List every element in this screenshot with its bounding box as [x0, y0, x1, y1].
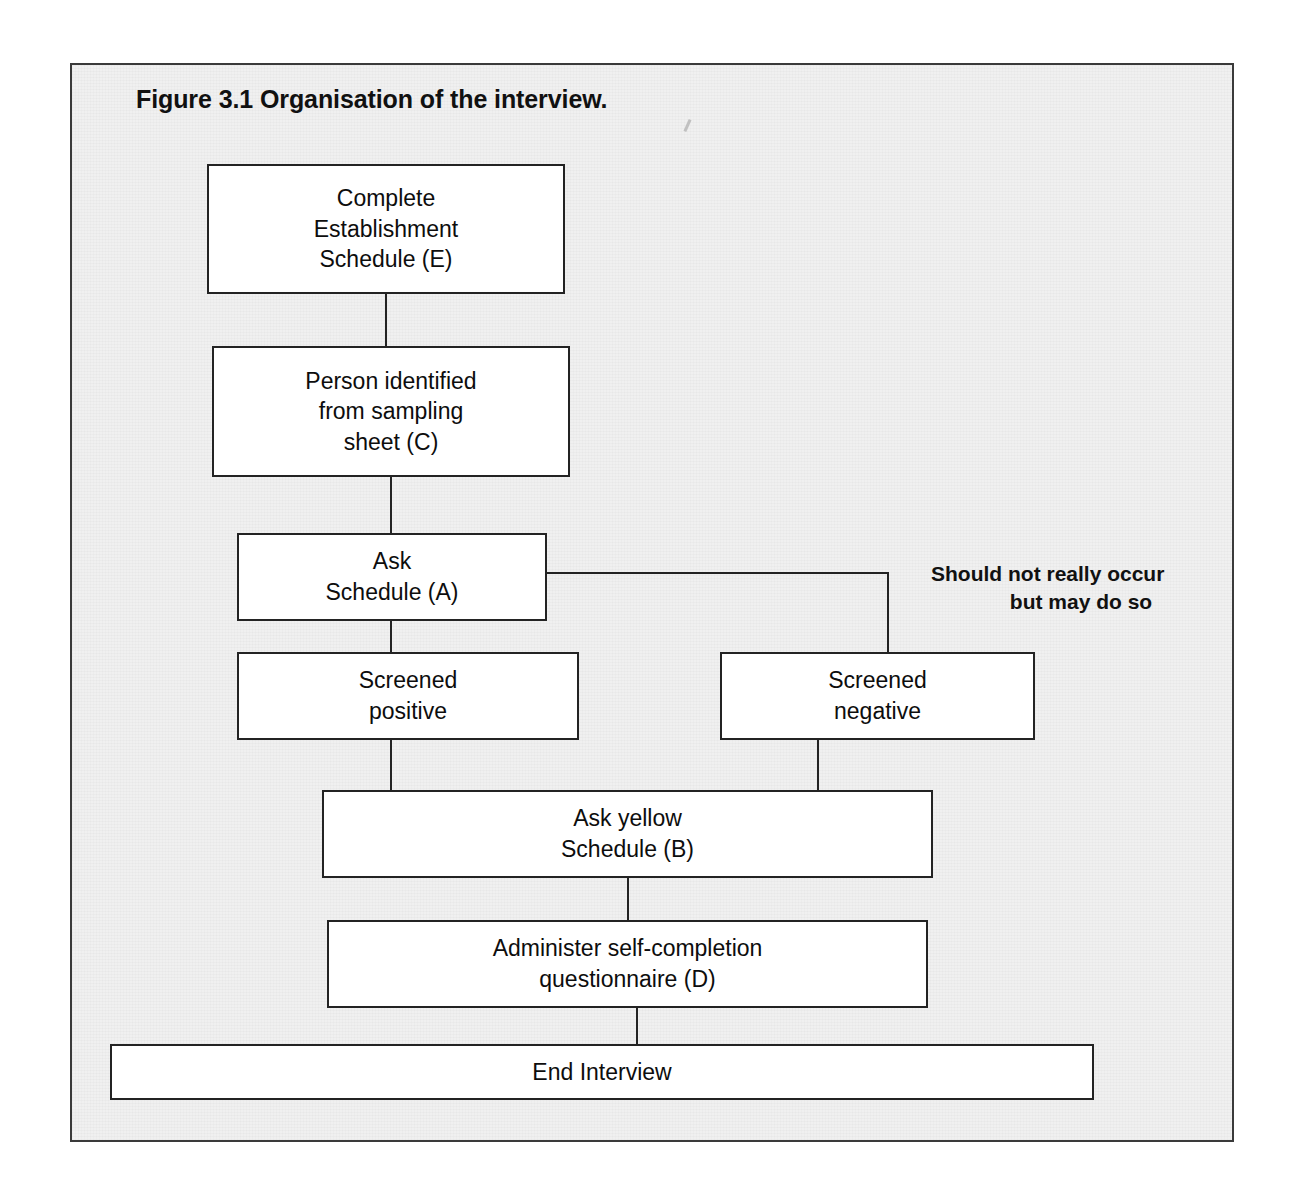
node-line: Establishment [314, 214, 458, 245]
node-line: positive [369, 696, 447, 727]
node-complete-establishment-schedule: Complete Establishment Schedule (E) [207, 164, 565, 294]
node-line: Schedule (E) [320, 244, 453, 275]
node-line: Ask yellow [573, 803, 682, 834]
node-line: End Interview [532, 1057, 671, 1088]
node-line: Screened [359, 665, 457, 696]
node-line: Screened [828, 665, 926, 696]
node-line: Complete [337, 183, 435, 214]
node-screened-negative: Screened negative [720, 652, 1035, 740]
figure-title: Figure 3.1 Organisation of the interview… [136, 85, 607, 114]
node-person-identified-from-sampling-sheet: Person identified from sampling sheet (C… [212, 346, 570, 477]
node-line: Person identified [305, 366, 476, 397]
node-line: negative [834, 696, 921, 727]
node-line: Administer self-completion [493, 933, 763, 964]
node-ask-yellow-schedule-b: Ask yellow Schedule (B) [322, 790, 933, 878]
node-line: sheet (C) [344, 427, 439, 458]
node-ask-schedule-a: Ask Schedule (A) [237, 533, 547, 621]
node-line: from sampling [319, 396, 463, 427]
node-end-interview: End Interview [110, 1044, 1094, 1100]
node-screened-positive: Screened positive [237, 652, 579, 740]
node-administer-self-completion-questionnaire-d: Administer self-completion questionnaire… [327, 920, 928, 1008]
annotation-line: Should not really occur [931, 560, 1234, 588]
annotation-should-not-really-occur: Should not really occur but may do so [928, 560, 1234, 617]
node-line: Ask [373, 546, 411, 577]
figure-page: Figure 3.1 Organisation of the interview… [0, 0, 1300, 1203]
node-line: questionnaire (D) [539, 964, 715, 995]
annotation-line: but may do so [928, 588, 1234, 616]
node-line: Schedule (B) [561, 834, 694, 865]
node-line: Schedule (A) [326, 577, 459, 608]
